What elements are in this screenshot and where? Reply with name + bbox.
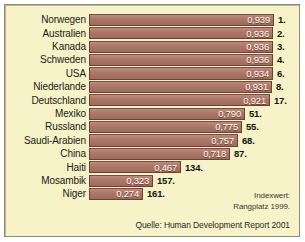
chart-source-line: Quelle: Human Development Report 2001 — [135, 220, 290, 230]
bar-value-label: 0,323 — [89, 174, 149, 187]
bar-value-label: 0,921 — [89, 94, 266, 107]
bar-track: 0,467134. — [89, 161, 301, 174]
chart-row: Mexiko0,79051. — [5, 107, 301, 120]
bar-rank-label: 6. — [277, 67, 285, 80]
category-label-niger: Niger — [5, 187, 86, 200]
bar-track: 0,9391. — [89, 13, 301, 26]
bar-value-label: 0,718 — [89, 147, 226, 160]
bar-rank-label: 3. — [277, 40, 285, 53]
chart-row: Norwegen0,9391. — [5, 13, 301, 26]
bar-rank-label: 161. — [147, 187, 165, 200]
category-label-norwegen: Norwegen — [5, 13, 86, 26]
bar-rank-label: 55. — [246, 120, 259, 133]
bar-rank-label: 87. — [234, 147, 247, 160]
bar-track: 0,9363. — [89, 40, 301, 53]
bar-rank-label: 1. — [278, 13, 286, 26]
category-label-haiti: Haiti — [5, 161, 86, 174]
bar-value-label: 0,936 — [89, 53, 269, 66]
bar-rank-label: 51. — [249, 107, 262, 120]
chart-row: Russland0,77555. — [5, 120, 301, 133]
bar-value-label: 0,931 — [89, 80, 268, 93]
bar-value-label: 0,790 — [89, 107, 241, 120]
chart-row: Haiti0,467134. — [5, 161, 301, 174]
bar-track: 0,77555. — [89, 120, 301, 133]
category-label-deutschland: Deutschland — [5, 94, 86, 107]
bar-value-label: 0,936 — [89, 27, 269, 40]
bar-value-label: 0,775 — [89, 120, 238, 133]
bar-value-label: 0,274 — [89, 187, 139, 200]
category-label-china: China — [5, 147, 86, 160]
bar-track: 0,323157. — [89, 174, 301, 187]
bar-rank-label: 134. — [185, 161, 203, 174]
chart-row: Schweden0,9364. — [5, 53, 301, 66]
category-label-kanada: Kanada — [5, 40, 86, 53]
bar-track: 0,9364. — [89, 53, 301, 66]
bar-rank-label: 157. — [157, 174, 175, 187]
bar-rank-label: 8. — [276, 80, 284, 93]
bar-value-label: 0,467 — [89, 161, 177, 174]
chart-legend-note: Indexwert: Rangplatz 1999. — [170, 191, 290, 212]
legend-line-indexwert: Indexwert: — [170, 191, 290, 202]
chart-row: Mosambik0,323157. — [5, 174, 301, 187]
bar-value-label: 0,934 — [89, 67, 269, 80]
bar-track: 0,9362. — [89, 27, 301, 40]
chart-row: Kanada0,9363. — [5, 40, 301, 53]
category-label-usa: USA — [5, 67, 86, 80]
chart-row: Saudi-Arabien0,75768. — [5, 134, 301, 147]
bar-track: 0,92117. — [89, 94, 301, 107]
category-label-mosambik: Mosambik — [5, 174, 86, 187]
bar-track: 0,9346. — [89, 67, 301, 80]
legend-line-rangplatz: Rangplatz 1999. — [170, 202, 290, 213]
chart-row: USA0,9346. — [5, 67, 301, 80]
category-label-schweden: Schweden — [5, 53, 86, 66]
category-label-australien: Australien — [5, 27, 86, 40]
chart-row: Niederlande0,9318. — [5, 80, 301, 93]
bar-rank-label: 4. — [277, 53, 285, 66]
chart-row: China0,71887. — [5, 147, 301, 160]
bar-value-label: 0,936 — [89, 40, 269, 53]
category-label-russland: Russland — [5, 120, 86, 133]
bar-rank-label: 68. — [242, 134, 255, 147]
chart-row: Australien0,9362. — [5, 27, 301, 40]
bar-rank-label: 17. — [274, 94, 287, 107]
bar-track: 0,71887. — [89, 147, 301, 160]
bar-value-label: 0,757 — [89, 134, 234, 147]
category-label-saudi-arabien: Saudi-Arabien — [5, 134, 86, 147]
category-label-mexiko: Mexiko — [5, 107, 86, 120]
bar-rank-label: 2. — [277, 27, 285, 40]
category-label-niederlande: Niederlande — [5, 80, 86, 93]
bar-track: 0,9318. — [89, 80, 301, 93]
chart-row: Deutschland0,92117. — [5, 94, 301, 107]
bar-value-label: 0,939 — [89, 13, 270, 26]
bar-track: 0,75768. — [89, 134, 301, 147]
bar-track: 0,79051. — [89, 107, 301, 120]
chart-frame: Norwegen0,9391.Australien0,9362.Kanada0,… — [4, 4, 300, 237]
